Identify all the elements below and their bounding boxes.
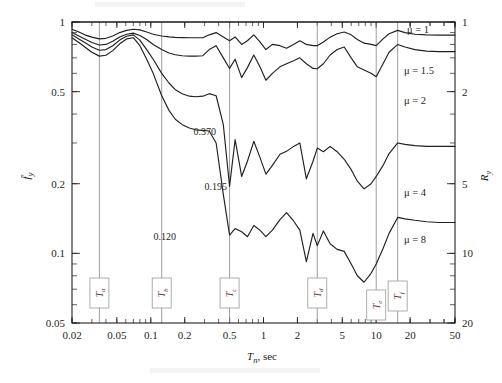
y-axis-label: f̄y <box>20 172 35 179</box>
x-tick-label: 0.05 <box>107 329 127 341</box>
y2-tick-label: 5 <box>462 178 468 190</box>
y-tick-label: 1 <box>60 16 66 28</box>
x-tick-label: 0.02 <box>62 329 81 341</box>
y2-tick-label: 2 <box>462 86 468 98</box>
x-axis-label: Tn, sec <box>247 350 277 365</box>
series-label-mu-1_5: μ = 1.5 <box>404 65 434 76</box>
annotation-0_195: 0.195 <box>205 181 228 192</box>
x-tick-label: 0.1 <box>144 329 158 341</box>
y2-tick-label: 1 <box>462 16 468 28</box>
y2-tick-label: 10 <box>462 247 474 259</box>
y2-tick-label: 20 <box>462 317 474 329</box>
x-tick-label: 10 <box>371 329 383 341</box>
y2-axis-label: Ry <box>478 171 493 183</box>
y-tick-label: 0.1 <box>51 247 65 259</box>
svg-text:Ry: Ry <box>478 171 493 183</box>
series-label-mu-1: μ = 1 <box>407 24 429 35</box>
y-tick-label: 0.2 <box>51 178 65 190</box>
annotation-0_120: 0.120 <box>154 231 177 242</box>
series-label-mu-4: μ = 4 <box>404 187 427 198</box>
series-label-mu-8: μ = 8 <box>404 234 426 245</box>
x-tick-label: 5 <box>340 329 346 341</box>
scan-artifact-bottom <box>150 368 320 373</box>
scan-artifact <box>95 2 245 7</box>
figure-container: 0.020.050.10.20.512510205010.50.20.10.05… <box>0 0 502 383</box>
x-tick-label: 2 <box>295 329 301 341</box>
series-label-mu-2: μ = 2 <box>404 95 426 106</box>
x-tick-label: 50 <box>450 329 462 341</box>
y-tick-label: 0.5 <box>51 86 65 98</box>
y-tick-label: 0.05 <box>46 317 66 329</box>
strength-reduction-chart: 0.020.050.10.20.512510205010.50.20.10.05… <box>0 0 502 383</box>
annotation-0_370: 0.370 <box>194 126 217 137</box>
x-tick-label: 20 <box>405 329 417 341</box>
x-tick-label: 0.5 <box>223 329 237 341</box>
x-tick-label: 0.2 <box>178 329 192 341</box>
x-tick-label: 1 <box>261 329 267 341</box>
svg-text:f̄y: f̄y <box>20 172 35 179</box>
